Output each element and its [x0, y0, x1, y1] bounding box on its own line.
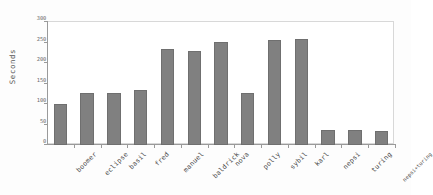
x-axis-tick-mark: [288, 144, 289, 148]
bar: [107, 93, 120, 145]
x-axis-tick-mark: [101, 144, 102, 148]
x-axis-tick-label: sybil: [289, 151, 309, 171]
bar: [321, 130, 334, 145]
bar: [241, 93, 254, 145]
x-axis-tick-label: eclipse: [104, 151, 130, 177]
bar: [161, 49, 174, 145]
x-axis-tick-mark: [127, 144, 128, 148]
bar: [80, 93, 93, 145]
bar: [268, 40, 281, 145]
x-axis-tick-mark: [208, 144, 209, 148]
x-axis-tick-label: turing: [370, 151, 393, 174]
x-axis-tick-label: fred: [154, 151, 171, 168]
x-axis-tick-label: polly: [262, 151, 282, 171]
x-axis-tick-mark: [315, 144, 316, 148]
x-axis-tick-label: basil: [128, 151, 148, 171]
bar: [348, 130, 361, 145]
bar: [375, 131, 388, 145]
x-axis-tick-label: karl: [314, 151, 331, 168]
y-axis-title: Seconds: [8, 37, 17, 97]
bar: [188, 51, 201, 145]
x-axis-tick-mark: [341, 144, 342, 148]
x-axis-tick-label: boomer: [76, 151, 99, 174]
bar: [134, 90, 147, 145]
x-axis-tick-mark: [181, 144, 182, 148]
bar: [54, 104, 67, 145]
x-axis-tick-mark: [368, 144, 369, 148]
x-axis-tick-label: nepsi: [342, 151, 362, 171]
bar: [214, 42, 227, 145]
x-axis-tick-mark: [395, 144, 396, 148]
x-axis-tick-mark: [234, 144, 235, 148]
x-axis-tick-label: manuel: [183, 151, 206, 174]
x-axis-tick-mark: [74, 144, 75, 148]
bar: [295, 39, 308, 145]
x-axis-tick-mark: [261, 144, 262, 148]
x-axis-tick-mark: [154, 144, 155, 148]
x-axis-tick-label: nepsi+turing: [401, 151, 433, 183]
bars-layer: [47, 21, 395, 145]
